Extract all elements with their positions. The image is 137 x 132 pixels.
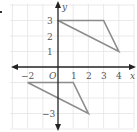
y-axis-down-arrow-icon — [55, 124, 61, 131]
coordinate-plane: y x O −2 1 2 3 4 3 2 1 −3 — [0, 0, 137, 132]
y-tick-label: 1 — [47, 47, 53, 57]
y-tick-label: 2 — [47, 32, 53, 42]
y-axis-label: y — [61, 2, 68, 12]
x-tick-label: 3 — [101, 71, 107, 81]
y-axis-up-arrow-icon — [55, 1, 61, 8]
y-tick-label: 3 — [47, 16, 53, 26]
x-tick-label: 1 — [71, 71, 77, 81]
y-tick-label: −3 — [42, 109, 56, 119]
x-tick-label: 2 — [86, 71, 92, 81]
x-axis-right-arrow-icon — [129, 64, 136, 70]
x-tick-label: −2 — [21, 71, 34, 81]
origin-label: O — [49, 71, 57, 81]
x-tick-label: 4 — [116, 71, 122, 81]
x-axis-label: x — [130, 71, 135, 81]
